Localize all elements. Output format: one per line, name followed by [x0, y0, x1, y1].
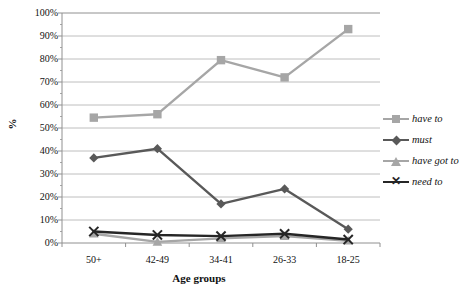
y-axis-tick-label: 50% — [6, 123, 58, 133]
x-axis-tick-label: 34-41 — [191, 254, 251, 265]
legend-marker — [383, 155, 409, 167]
series-line — [94, 149, 348, 230]
x-axis-title: Age groups — [0, 272, 458, 284]
legend-item-must[interactable]: must — [383, 129, 458, 150]
legend-marker — [383, 134, 409, 146]
legend-marker: ✕ — [383, 176, 409, 188]
legend-item-have-to[interactable]: have to — [383, 108, 458, 129]
legend-label: have to — [412, 113, 443, 124]
y-axis-tick-label: 30% — [6, 169, 58, 179]
diamond-marker — [89, 153, 98, 162]
y-axis-tick-label: 10% — [6, 215, 58, 225]
y-axis-tick-label: 0% — [6, 238, 58, 248]
square-marker — [344, 25, 352, 33]
square-marker — [90, 113, 98, 121]
square-marker — [217, 56, 225, 64]
legend-label: must — [412, 134, 432, 145]
y-axis-tick-label: 40% — [6, 146, 58, 156]
cross-marker: ✕ — [391, 176, 401, 187]
diamond-marker — [392, 135, 402, 145]
series-line — [94, 29, 348, 118]
y-axis-tick-label: 80% — [6, 54, 58, 64]
series-have-to — [90, 25, 353, 122]
y-axis-tick-label: 70% — [6, 77, 58, 87]
square-marker — [153, 110, 161, 118]
x-axis-title-text: Age groups — [172, 272, 225, 284]
x-axis-tick-label: 26-33 — [255, 254, 315, 265]
y-axis-tick-label: 100% — [6, 8, 58, 18]
legend-label: need to — [412, 176, 443, 187]
legend-item-need-to[interactable]: ✕need to — [383, 171, 458, 192]
legend-item-have-got-to[interactable]: have got to — [383, 150, 458, 171]
y-axis-tick-label: 90% — [6, 31, 58, 41]
y-axis-tick-label: 20% — [6, 192, 58, 202]
x-axis-tick-label: 50+ — [64, 254, 124, 265]
y-axis-tick-label: 60% — [6, 100, 58, 110]
legend-label: have got to — [412, 155, 459, 166]
y-axis-tick-labels: 0%10%20%30%40%50%60%70%80%90%100% — [4, 0, 58, 297]
x-axis-tick-label: 18-25 — [318, 254, 378, 265]
legend-marker — [383, 113, 409, 125]
square-marker — [392, 115, 400, 123]
chart-legend: have tomusthave got to✕need to — [383, 108, 458, 192]
square-marker — [280, 73, 288, 81]
triangle-marker — [391, 157, 401, 166]
x-axis-tick-label: 42-49 — [127, 254, 187, 265]
